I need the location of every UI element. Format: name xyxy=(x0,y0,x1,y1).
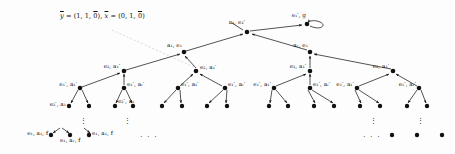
leaf-12 xyxy=(332,104,336,108)
level3-node-1-label: e₂, a₁′ xyxy=(104,64,120,70)
deep-leaf-6 xyxy=(440,133,444,137)
level4-node-5 xyxy=(272,86,277,91)
leaf-3-label: e₂′, a₁ xyxy=(118,99,134,105)
level3-node-3-label: e₂, a₁′ xyxy=(290,64,306,70)
vector-annotation: y = (1, 1, 0), x = (0, 1, 0) xyxy=(60,13,145,20)
leaf-10 xyxy=(286,104,290,108)
leaf-5 xyxy=(160,104,164,108)
leaf-15 xyxy=(405,104,409,108)
level3-node-2 xyxy=(194,69,199,74)
root-node-label: a₁, e₂′ xyxy=(229,20,245,26)
figure-canvas: y = (1, 1, 0), x = (0, 1, 0) a₁, e₂′e₁′,… xyxy=(0,0,455,154)
ellipsis-bottom-left: · · · xyxy=(140,133,158,141)
leaf-11 xyxy=(312,104,316,108)
level4-node-8 xyxy=(417,86,422,91)
leaf-8 xyxy=(225,104,229,108)
deep-leaf-3-label: e₁, a₁, f xyxy=(92,131,113,137)
level2-left-node-label: a₁, e₁ xyxy=(167,43,182,49)
level4-node-2-label: e₁′, aᵣ′ xyxy=(127,82,144,88)
deep-leaf-1 xyxy=(49,133,53,137)
level3-node-1 xyxy=(122,69,127,74)
deep-leaf-2-label: e₁, aᵣ, f xyxy=(60,138,80,144)
edge-group-deep xyxy=(53,128,90,133)
leaf-9 xyxy=(267,104,271,108)
level3-node-2-label: e₂, a₁′ xyxy=(200,65,216,71)
level3-node-4 xyxy=(391,69,396,74)
level2-left-node xyxy=(182,50,187,55)
level3-node-4-label: e₂, a₁′ xyxy=(373,64,389,70)
level3-node-3 xyxy=(308,69,313,74)
level4-node-1-label: e₁′, a₁′ xyxy=(59,82,77,88)
level4-node-4-label: e₁′, aᵣ′ xyxy=(228,82,245,88)
leaf-6 xyxy=(180,104,184,108)
leaf-2 xyxy=(87,104,91,108)
deep-leaf-3 xyxy=(87,133,91,137)
level4-node-6 xyxy=(308,86,313,91)
deep-leaf-1-label: e₁, a₁, f xyxy=(27,131,48,137)
tree-graphic xyxy=(0,0,455,154)
ellipsis-bottom-right: · · · xyxy=(363,133,381,141)
ellipsis-vert-1: ⋮ xyxy=(80,118,87,125)
level4-node-6-label: e₁′, aᵣ′ xyxy=(313,82,330,88)
ellipsis-vert-2: ⋮ xyxy=(124,118,131,125)
level4-node-4 xyxy=(223,86,228,91)
self-loop-node-label: e₁′, g xyxy=(292,13,306,19)
edge-group-level2 xyxy=(126,54,391,70)
root-node xyxy=(245,30,250,35)
leaf-7 xyxy=(205,104,209,108)
level4-node-3 xyxy=(176,86,181,91)
deep-leaf-4 xyxy=(390,133,394,137)
deep-leaf-5 xyxy=(415,133,419,137)
leaf-1 xyxy=(67,104,71,108)
leaf-3 xyxy=(113,104,117,108)
node-layer xyxy=(78,22,422,91)
level4-node-3-label: e₁′, a₁′ xyxy=(181,82,199,88)
level4-node-8-label: e₁′, aᵣ′ xyxy=(399,82,416,88)
ellipsis-vert-3: ⋮ xyxy=(370,118,377,125)
annotation-pointer xyxy=(112,30,196,68)
leaf-16 xyxy=(425,104,429,108)
level4-node-7-label: e₁′, a₁′ xyxy=(336,82,354,88)
ellipsis-vert-4: ⋮ xyxy=(417,118,424,125)
level4-node-7 xyxy=(355,86,360,91)
leaf-14 xyxy=(378,104,382,108)
level4-node-5-label: e₁′, a₁′ xyxy=(253,82,271,88)
leaf-13 xyxy=(358,104,362,108)
level4-node-1 xyxy=(78,86,83,91)
level4-node-2 xyxy=(122,86,127,91)
level2-right-node-label: aᵣ, e₁ xyxy=(293,43,308,49)
leaf-1-label: e₂′, a₁ xyxy=(50,102,66,108)
level2-right-node xyxy=(308,50,313,55)
self-loop-node xyxy=(305,22,310,27)
